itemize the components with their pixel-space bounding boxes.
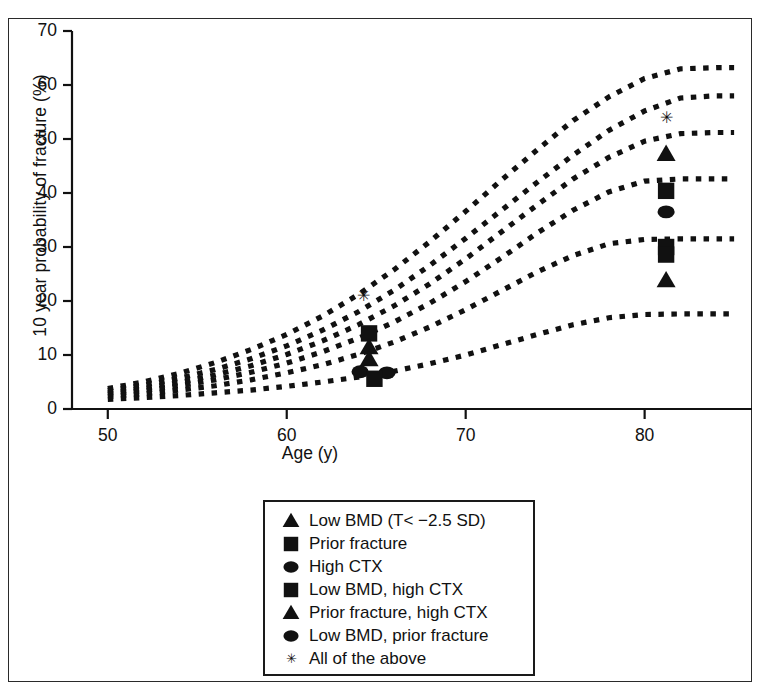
data-point-7-star: ✳ <box>660 109 673 126</box>
chart-legend: Low BMD (T< −2.5 SD)Prior fractureHigh C… <box>263 500 535 676</box>
square-glyph <box>280 580 302 600</box>
circle-legend-glyph <box>283 561 298 572</box>
legend-item-label: All of the above <box>303 650 426 667</box>
curve-series-1 <box>108 96 734 391</box>
circle-legend-glyph <box>283 630 298 641</box>
data-point-12-square <box>658 246 674 262</box>
legend-item: High CTX <box>265 555 533 578</box>
chart-svg: ✳✳ <box>0 0 764 470</box>
square-glyph <box>280 534 302 554</box>
figure-root: ✳✳ 010203040506070 50607080 10 year prob… <box>0 0 764 694</box>
axis-lines <box>72 31 752 409</box>
star-legend-glyph: ✳ <box>286 652 297 666</box>
legend-item-label: Low BMD (T< −2.5 SD) <box>303 512 486 529</box>
legend-item-label: Prior fracture <box>303 535 407 552</box>
legend-item-label: High CTX <box>303 558 383 575</box>
triangle-icon <box>279 511 303 531</box>
star-icon: ✳ <box>279 649 303 669</box>
chart-plot-area: ✳✳ 010203040506070 50607080 10 year prob… <box>0 0 764 470</box>
y-axis-ticks <box>63 31 72 409</box>
legend-item: Low BMD (T< −2.5 SD) <box>265 509 533 532</box>
y-axis-title: 10 year probability of fracture (%) <box>30 6 51 406</box>
legend-item: Low BMD, prior fracture <box>265 624 533 647</box>
square-icon <box>279 580 303 600</box>
legend-item-label: Low BMD, high CTX <box>303 581 463 598</box>
legend-item: Prior fracture, high CTX <box>265 601 533 624</box>
triangle-icon <box>279 603 303 623</box>
legend-item: Prior fracture <box>265 532 533 555</box>
circle-glyph <box>280 626 302 646</box>
data-point-0-star: ✳ <box>357 287 370 304</box>
chart-data-markers: ✳✳ <box>352 109 676 387</box>
circle-glyph <box>280 557 302 577</box>
square-legend-glyph <box>284 582 298 596</box>
chart-curves <box>108 68 734 400</box>
triangle-legend-glyph <box>283 512 300 526</box>
data-point-13-triangle <box>657 271 676 287</box>
data-point-6-square <box>366 371 382 387</box>
triangle-glyph <box>280 511 302 531</box>
triangle-glyph <box>280 603 302 623</box>
triangle-legend-glyph <box>283 604 300 618</box>
legend-item-label: Low BMD, prior fracture <box>303 627 489 644</box>
circle-icon <box>279 626 303 646</box>
curve-series-3 <box>108 179 734 394</box>
data-point-9-square <box>658 183 674 199</box>
square-icon <box>279 534 303 554</box>
x-axis-ticks <box>108 409 645 419</box>
star-glyph: ✳ <box>280 649 302 669</box>
legend-item: ✳All of the above <box>265 647 533 670</box>
curve-series-0 <box>108 68 734 389</box>
curve-series-2 <box>108 133 734 393</box>
data-point-10-circle <box>658 206 675 219</box>
legend-item-label: Prior fracture, high CTX <box>303 604 488 621</box>
data-point-4-circle <box>352 365 369 378</box>
square-legend-glyph <box>284 536 298 550</box>
circle-icon <box>279 557 303 577</box>
data-point-8-triangle <box>657 145 676 161</box>
x-axis-title: Age (y) <box>0 443 620 464</box>
legend-item: Low BMD, high CTX <box>265 578 533 601</box>
